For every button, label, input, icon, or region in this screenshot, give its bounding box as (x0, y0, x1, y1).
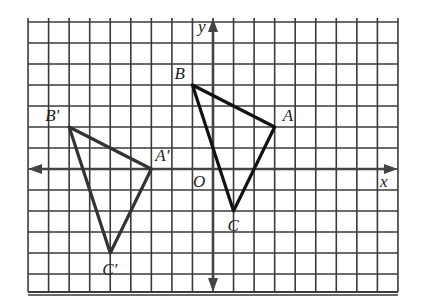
x-axis-label: x (379, 172, 388, 191)
x-axis-left-arrow-icon (28, 164, 42, 174)
vertex-label-c-prime: C' (102, 260, 117, 279)
vertex-label-b: B (174, 64, 185, 83)
vertex-label-b-prime: B' (45, 106, 59, 125)
vertex-label-a: A (282, 106, 294, 125)
vertex-label-c: C (228, 216, 240, 235)
y-axis-down-arrow-icon (208, 278, 218, 292)
vertex-label-a-prime: A' (154, 146, 169, 165)
coordinate-plane-figure: yxOABCA'B'C' (0, 0, 424, 304)
y-axis-label: y (196, 17, 206, 36)
y-axis-up-arrow-icon (208, 18, 218, 32)
origin-label: O (193, 172, 205, 191)
grid-plot: yxOABCA'B'C' (0, 0, 424, 304)
